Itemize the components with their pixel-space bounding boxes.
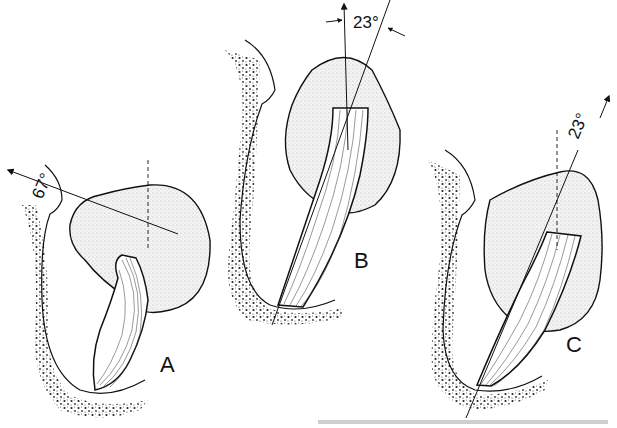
panel-b: 23° B xyxy=(225,0,405,325)
panel-c-angle-label: 23° xyxy=(564,110,592,141)
panel-c-label: C xyxy=(566,332,582,357)
panel-a-angle-label: 67° xyxy=(28,170,56,201)
caption-fragment xyxy=(318,420,608,424)
panel-c-angle-arrow xyxy=(600,96,609,118)
panel-b-angle-arrow-left xyxy=(326,20,342,22)
panel-a: 67° A xyxy=(8,160,210,418)
panel-b-angle-arrow-right xyxy=(388,28,405,36)
panel-b-label: B xyxy=(354,248,369,273)
figure-canvas: 67° A 23° B xyxy=(0,0,617,428)
panel-c: 23° C xyxy=(428,96,609,418)
panel-b-angle-label: 23° xyxy=(353,13,379,32)
panel-a-label: A xyxy=(160,352,175,377)
